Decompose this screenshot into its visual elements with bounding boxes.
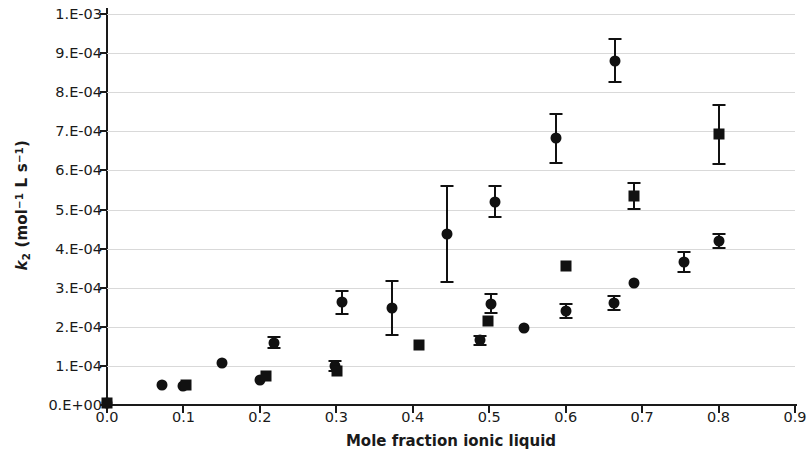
- plot-area: [107, 14, 795, 405]
- y-tick-mark: [100, 52, 107, 54]
- error-bar-cap: [386, 280, 399, 282]
- x-axis-title: Mole fraction ionic liquid: [107, 432, 795, 450]
- error-bar-cap: [484, 312, 497, 314]
- data-point-circle: [442, 228, 453, 239]
- error-bar-cap: [607, 295, 620, 297]
- data-point-square: [482, 316, 493, 327]
- gridline: [107, 92, 795, 93]
- y-tick-mark: [100, 91, 107, 93]
- y-tick-label: 4.E-04: [18, 241, 102, 256]
- error-bar-cap: [335, 313, 348, 315]
- data-point-circle: [610, 55, 621, 66]
- error-bar-cap: [609, 38, 622, 40]
- y-tick-label: 7.E-04: [18, 124, 102, 139]
- x-tick-label: 0.1: [153, 410, 213, 425]
- data-point-circle: [336, 297, 347, 308]
- data-point-circle: [475, 335, 486, 346]
- error-bar-cap: [559, 317, 572, 319]
- error-bar-cap: [550, 113, 563, 115]
- data-point-circle: [679, 257, 690, 268]
- error-bar-cap: [712, 104, 725, 106]
- x-axis-line: [106, 404, 797, 406]
- x-tick-label: 0.9: [765, 410, 811, 425]
- x-tick-label: 0.7: [612, 410, 672, 425]
- y-tick-mark: [100, 287, 107, 289]
- y-tick-mark: [100, 365, 107, 367]
- error-bar-cap: [489, 185, 502, 187]
- data-point-square: [261, 371, 272, 382]
- data-point-circle: [518, 323, 529, 334]
- error-bar-cap: [441, 185, 454, 187]
- gridline: [107, 131, 795, 132]
- gridline: [107, 366, 795, 367]
- data-point-square: [102, 398, 113, 409]
- data-point-circle: [560, 306, 571, 317]
- gridline: [107, 210, 795, 211]
- data-point-circle: [216, 358, 227, 369]
- data-point-square: [560, 261, 571, 272]
- gridline: [107, 170, 795, 171]
- x-tick-label: 0.5: [459, 410, 519, 425]
- error-bar-cap: [628, 208, 641, 210]
- error-bar-cap: [678, 251, 691, 253]
- error-bar-cap: [607, 309, 620, 311]
- gridline: [107, 249, 795, 250]
- y-axis-line: [106, 8, 108, 405]
- error-bar-cap: [712, 247, 725, 249]
- error-bar-cap: [489, 216, 502, 218]
- y-tick-mark: [100, 130, 107, 132]
- data-point-circle: [608, 297, 619, 308]
- y-tick-mark: [100, 326, 107, 328]
- error-bar-cap: [335, 290, 348, 292]
- error-bar-cap: [628, 182, 641, 184]
- y-tick-mark: [100, 169, 107, 171]
- error-bar-cap: [678, 271, 691, 273]
- gridline: [107, 14, 795, 15]
- y-axis-tick-labels: 0.E+001.E-042.E-043.E-044.E-045.E-046.E-…: [12, 0, 102, 460]
- y-tick-mark: [100, 209, 107, 211]
- x-tick-label: 0.2: [230, 410, 290, 425]
- x-tick-label: 0.3: [306, 410, 366, 425]
- data-point-circle: [551, 133, 562, 144]
- y-tick-label: 5.E-04: [18, 202, 102, 217]
- data-point-circle: [485, 298, 496, 309]
- y-tick-mark: [100, 13, 107, 15]
- data-point-circle: [629, 278, 640, 289]
- x-tick-label: 0.6: [536, 410, 596, 425]
- gridline: [107, 53, 795, 54]
- x-tick-label: 0.4: [383, 410, 443, 425]
- data-point-square: [629, 190, 640, 201]
- error-bar-cap: [550, 162, 563, 164]
- data-point-circle: [713, 235, 724, 246]
- data-point-circle: [387, 303, 398, 314]
- data-point-square: [713, 129, 724, 140]
- y-tick-label: 1.E-03: [18, 7, 102, 22]
- data-point-square: [413, 339, 424, 350]
- error-bar-cap: [484, 293, 497, 295]
- y-tick-label: 6.E-04: [18, 163, 102, 178]
- y-tick-label: 1.E-04: [18, 359, 102, 374]
- data-point-circle: [490, 196, 501, 207]
- data-point-square: [180, 379, 191, 390]
- error-bar-cap: [441, 281, 454, 283]
- y-tick-label: 2.E-04: [18, 320, 102, 335]
- data-point-circle: [268, 337, 279, 348]
- data-point-square: [332, 365, 343, 376]
- gridline: [107, 288, 795, 289]
- data-point-circle: [157, 380, 168, 391]
- y-tick-mark: [100, 248, 107, 250]
- error-bar-cap: [386, 334, 399, 336]
- y-tick-label: 9.E-04: [18, 46, 102, 61]
- y-tick-label: 8.E-04: [18, 85, 102, 100]
- x-tick-label: 0.8: [689, 410, 749, 425]
- gridline: [107, 327, 795, 328]
- x-tick-label: 0.0: [77, 410, 137, 425]
- error-bar-cap: [609, 81, 622, 83]
- error-bar-cap: [712, 163, 725, 165]
- y-tick-label: 3.E-04: [18, 280, 102, 295]
